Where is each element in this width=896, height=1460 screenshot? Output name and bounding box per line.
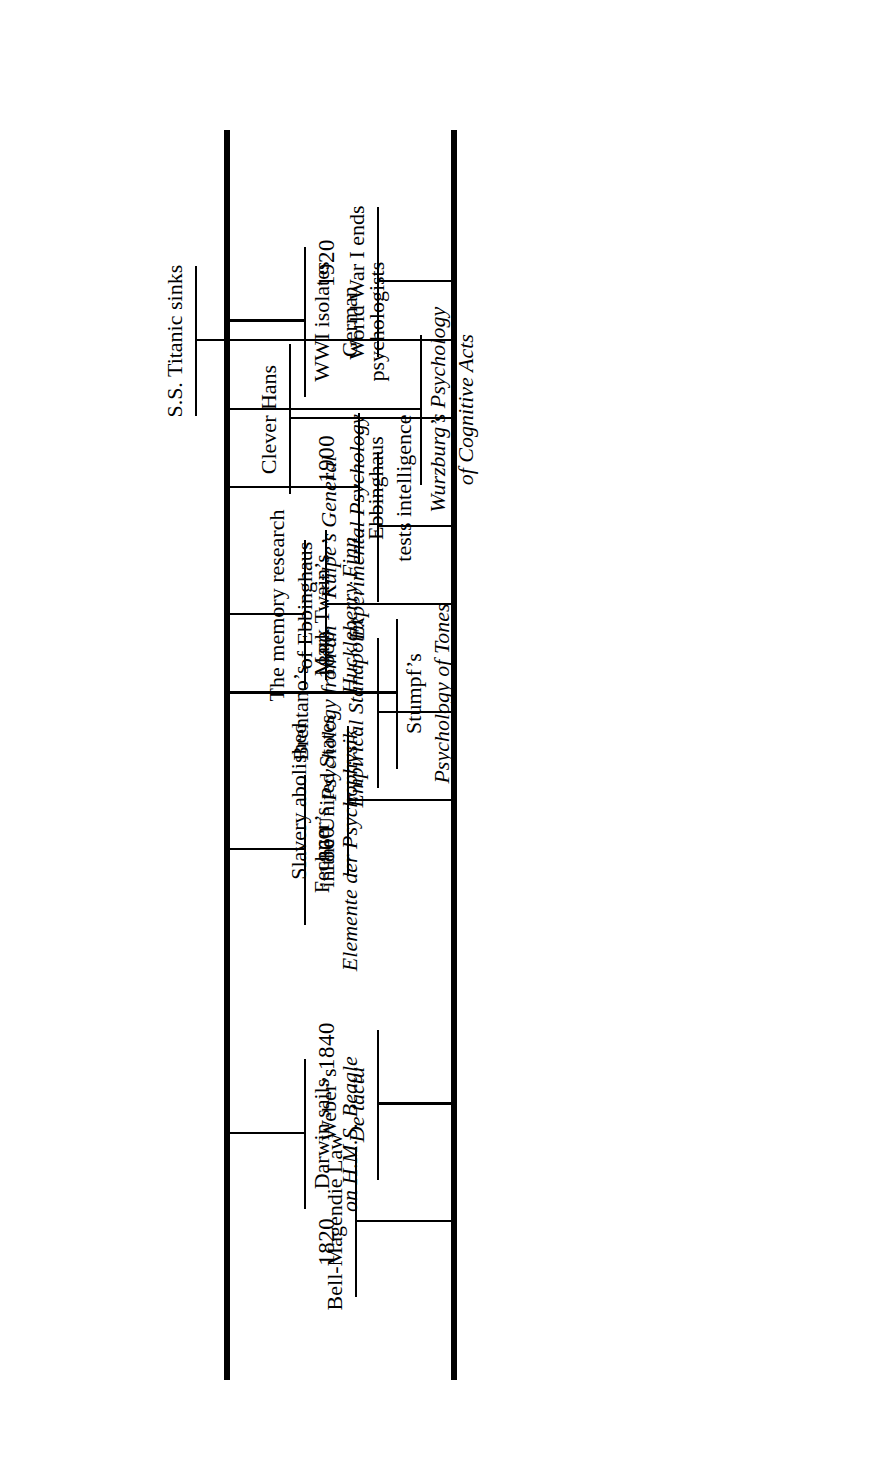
event-stem	[230, 848, 304, 850]
timeline-figure: 182018401860188019001920 Bell-Magendie L…	[0, 0, 896, 1460]
event-rule	[195, 266, 197, 416]
event-rule	[304, 1059, 306, 1209]
event-stem	[377, 1102, 451, 1104]
event-label-line: Clever Hans	[255, 210, 283, 630]
event-stem	[230, 1132, 304, 1134]
event-label-line: tests intelligence	[390, 278, 418, 698]
event-label-line: of Cognitive Acts	[452, 200, 480, 620]
event-label-line: WWI isolates	[308, 112, 336, 532]
timeline-stage: 182018401860188019001920 Bell-Magendie L…	[38, 80, 858, 1380]
event-label-line: German	[336, 112, 364, 532]
event-label-line: Wurzburg’s Psychology	[424, 200, 452, 620]
event-label: Clever Hans	[255, 210, 283, 630]
event-label: WWI isolatesGermanpsychologists	[308, 112, 391, 532]
event-stem	[230, 613, 304, 615]
event-label-line: S.S. Titanic sinks	[161, 131, 189, 551]
event-rule	[304, 775, 306, 925]
event-rule	[289, 345, 291, 495]
event-label: S.S. Titanic sinks	[161, 131, 189, 551]
event-rule	[304, 540, 306, 690]
event-label: Wurzburg’s Psychologyof Cognitive Acts	[424, 200, 479, 620]
event-label-line: psychologists	[363, 112, 391, 532]
timeline-axis-lower	[224, 130, 230, 1380]
event-stem	[230, 319, 304, 321]
event-rule	[377, 1030, 379, 1180]
event-rule	[420, 335, 422, 485]
event-rule	[304, 247, 306, 397]
